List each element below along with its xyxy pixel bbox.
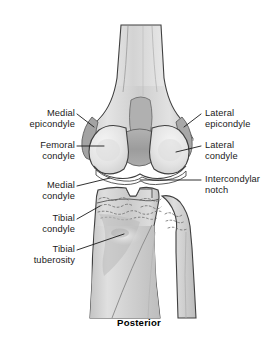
label-tibial-tuberosity: Tibial tuberosity — [34, 244, 75, 266]
label-lateral-condyle-line2: condyle — [205, 151, 238, 162]
label-femoral-condyle-line1: Femoral — [40, 140, 75, 151]
label-tibial-tuberosity-line2: tuberosity — [34, 255, 75, 266]
fibula-outline — [162, 196, 196, 318]
label-medial-condyle: Medial condyle — [42, 180, 75, 202]
label-intercondylar-notch-line2: notch — [205, 185, 260, 196]
leader-lateral-epicondyle — [184, 114, 201, 127]
leader-medial-condyle — [77, 178, 110, 186]
label-tibial-condyle-line1: Tibial — [42, 213, 75, 224]
label-tibial-tuberosity-line1: Tibial — [34, 244, 75, 255]
label-intercondylar-notch: Intercondylar notch — [205, 174, 260, 196]
label-lateral-epicondyle-line2: epicondyle — [205, 119, 250, 130]
label-lateral-condyle-line1: Lateral — [205, 140, 238, 151]
label-tibial-condyle-line2: condyle — [42, 224, 75, 235]
label-lateral-epicondyle: Lateral epicondyle — [205, 108, 250, 130]
label-medial-epicondyle-line1: Medial — [30, 108, 75, 119]
label-medial-epicondyle: Medial epicondyle — [30, 108, 75, 130]
tibia-bone — [90, 187, 162, 318]
label-intercondylar-notch-line1: Intercondylar — [205, 174, 260, 185]
anatomy-figure: Medial epicondyle Femoral condyle Medial… — [0, 0, 278, 343]
label-femoral-condyle-line2: condyle — [40, 151, 75, 162]
label-medial-condyle-line2: condyle — [42, 191, 75, 202]
label-femoral-condyle: Femoral condyle — [40, 140, 75, 162]
knee-joint-illustration — [0, 0, 278, 343]
femur-bone — [82, 25, 194, 185]
label-lateral-condyle: Lateral condyle — [205, 140, 238, 162]
fibula-bone — [162, 196, 196, 318]
label-tibial-condyle: Tibial condyle — [42, 213, 75, 235]
label-medial-epicondyle-line2: epicondyle — [30, 119, 75, 130]
lateral-condyle-shading — [158, 139, 182, 161]
medial-condyle-shading — [96, 139, 120, 161]
tibial-tuberosity-shadow — [111, 229, 129, 238]
figure-caption: Posterior — [0, 317, 278, 328]
label-lateral-epicondyle-line1: Lateral — [205, 108, 250, 119]
label-medial-condyle-line1: Medial — [42, 180, 75, 191]
